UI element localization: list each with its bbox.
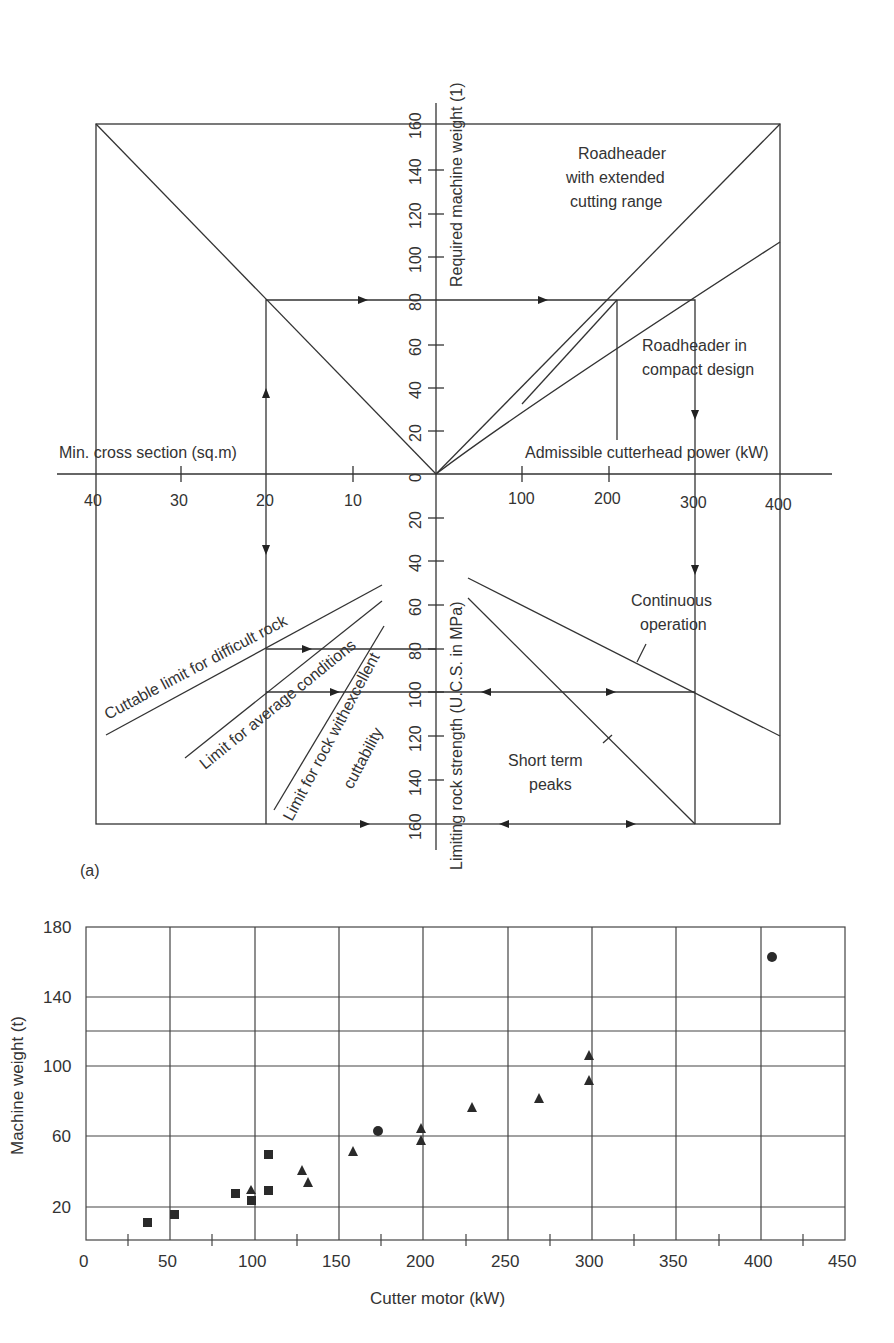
svg-text:0: 0 <box>407 473 424 482</box>
svg-text:20: 20 <box>52 1198 71 1217</box>
extended-label-2: with extended <box>565 169 665 186</box>
data-markers <box>143 952 777 1227</box>
short-term-label-1: Short term <box>508 752 583 769</box>
marker-square <box>170 1210 179 1219</box>
svg-text:60: 60 <box>407 598 424 616</box>
compact-label-1: Roadheader in <box>642 337 747 354</box>
scatter-chart: 0 50 100 150 200 250 300 350 400 450 20 … <box>8 918 856 1308</box>
svg-text:100: 100 <box>238 1252 266 1271</box>
svg-text:40: 40 <box>407 554 424 572</box>
extended-label-1: Roadheader <box>578 145 667 162</box>
svg-text:60: 60 <box>52 1127 71 1146</box>
cs-tick-20: 20 <box>256 492 274 509</box>
continuous-label-1: Continuous <box>631 592 712 609</box>
pw-tick-400: 400 <box>765 496 792 513</box>
svg-text:140: 140 <box>407 769 424 796</box>
marker-triangle <box>416 1123 426 1133</box>
svg-text:150: 150 <box>322 1252 350 1271</box>
marker-triangle <box>297 1165 307 1175</box>
cs-tick-10: 10 <box>344 492 362 509</box>
panel-a-label: (a) <box>80 862 100 879</box>
cs-tick-40: 40 <box>84 492 102 509</box>
marker-circle <box>373 1126 383 1136</box>
continuous-label-2: operation <box>640 616 707 633</box>
weight-tick-labels: 0 20 40 60 80 100 120 140 160 <box>407 112 424 482</box>
svg-text:160: 160 <box>407 813 424 840</box>
continuous-operation-line <box>468 578 780 736</box>
marker-circle <box>767 952 777 962</box>
short-term-label-2: peaks <box>529 776 572 793</box>
marker-triangle <box>348 1146 358 1156</box>
cross-section-axis-label: Min. cross section (sq.m) <box>59 444 237 461</box>
extended-range-inner <box>522 300 617 404</box>
pw-tick-200: 200 <box>594 490 621 507</box>
strength-tick-labels: 20 40 60 80 100 120 140 160 <box>407 511 424 840</box>
svg-text:120: 120 <box>407 725 424 752</box>
weight-axis-label: Required machine weight (1) <box>448 82 465 287</box>
pw-tick-300: 300 <box>680 494 707 511</box>
compact-design-line <box>436 242 780 474</box>
svg-text:400: 400 <box>744 1252 772 1271</box>
svg-text:180: 180 <box>43 918 71 937</box>
svg-text:20: 20 <box>407 511 424 529</box>
figure-canvas: Roadheader with extended cutting range R… <box>0 0 894 1343</box>
svg-text:140: 140 <box>407 158 424 185</box>
svg-text:140: 140 <box>43 988 71 1007</box>
grid <box>86 927 845 1246</box>
svg-text:160: 160 <box>407 112 424 139</box>
svg-text:40: 40 <box>407 381 424 399</box>
svg-text:200: 200 <box>406 1252 434 1271</box>
svg-text:350: 350 <box>659 1252 687 1271</box>
svg-text:60: 60 <box>407 338 424 356</box>
compact-label-2: compact design <box>642 361 754 378</box>
svg-text:250: 250 <box>491 1252 519 1271</box>
marker-square <box>264 1150 273 1159</box>
svg-text:80: 80 <box>407 293 424 311</box>
strength-axis-label: Limiting rock strength (U.C.S. in MPa) <box>448 601 465 870</box>
svg-text:80: 80 <box>407 642 424 660</box>
cs-tick-30: 30 <box>170 492 188 509</box>
svg-text:100: 100 <box>407 681 424 708</box>
pw-tick-100: 100 <box>508 490 535 507</box>
marker-square <box>247 1196 256 1205</box>
svg-text:450: 450 <box>828 1252 856 1271</box>
marker-triangle <box>534 1093 544 1103</box>
marker-square <box>231 1189 240 1198</box>
marker-triangle <box>467 1102 477 1112</box>
svg-text:300: 300 <box>575 1252 603 1271</box>
marker-square <box>143 1218 152 1227</box>
y-axis-label: Machine weight (t) <box>8 1016 27 1155</box>
scatter-axis-labels: 0 50 100 150 200 250 300 350 400 450 20 … <box>8 918 856 1308</box>
nomogram <box>57 103 832 850</box>
excellent-label-2: cuttability <box>340 725 386 792</box>
extended-label-3: cutting range <box>570 193 663 210</box>
svg-text:120: 120 <box>407 202 424 229</box>
power-axis-label: Admissible cutterhead power (kW) <box>525 444 769 461</box>
svg-text:100: 100 <box>407 246 424 273</box>
x-axis-label: Cutter motor (kW) <box>370 1289 505 1308</box>
svg-text:0: 0 <box>79 1252 88 1271</box>
svg-text:50: 50 <box>158 1252 177 1271</box>
svg-text:20: 20 <box>407 424 424 442</box>
marker-square <box>264 1186 273 1195</box>
svg-text:100: 100 <box>43 1057 71 1076</box>
marker-triangle <box>303 1177 313 1187</box>
